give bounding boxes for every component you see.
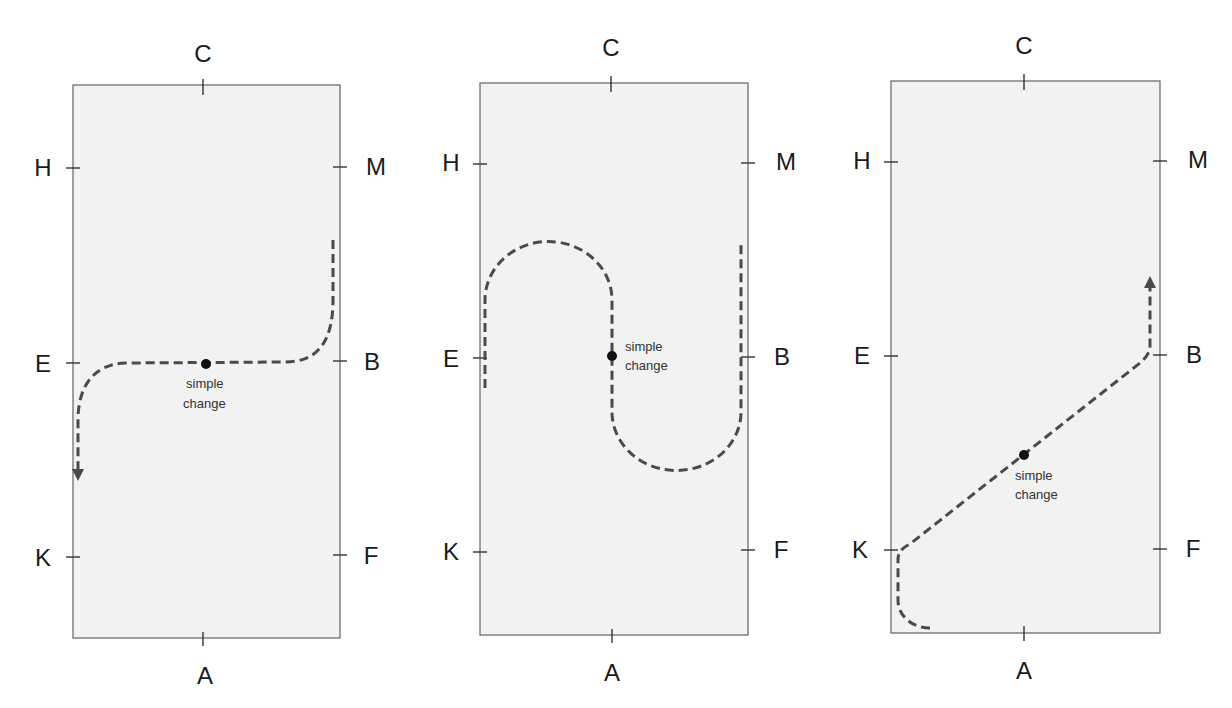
arena-2-letter-a: A — [604, 659, 620, 686]
arena-1-letter-k: K — [35, 544, 51, 571]
arena-2-letter-m: M — [776, 148, 796, 175]
arena-3-letter-k: K — [852, 536, 868, 563]
arena-1-letter-e: E — [35, 350, 51, 377]
arena-2-letter-f: F — [774, 536, 789, 563]
arena-3-letter-b: B — [1186, 341, 1202, 368]
arena-3-letter-h: H — [853, 147, 870, 174]
arena-1-change-marker-dot — [201, 359, 211, 369]
arena-3-letter-f: F — [1186, 535, 1201, 562]
arena-1: C A H E K M B F simple change — [34, 40, 386, 689]
arena-3-letter-c: C — [1015, 32, 1032, 59]
arena-2-letter-c: C — [602, 34, 619, 61]
arena-1-marker-label-line1: simple — [186, 376, 224, 391]
arena-1-letter-f: F — [364, 542, 379, 569]
arena-3-boundary — [891, 81, 1160, 633]
arena-2-letter-k: K — [443, 538, 459, 565]
arena-1-marker-label-line2: change — [183, 396, 226, 411]
arena-2-marker-label-line1: simple — [625, 339, 663, 354]
arena-1-letter-h: H — [34, 154, 51, 181]
arena-1-letter-c: C — [194, 40, 211, 67]
arena-3-letter-e: E — [854, 342, 870, 369]
arena-3-marker-label-line2: change — [1015, 487, 1058, 502]
dressage-arena-diagram: C A H E K M B F simple change C A H E K … — [0, 0, 1232, 708]
arena-1-letter-b: B — [364, 348, 380, 375]
arena-2-marker-label-line2: change — [625, 358, 668, 373]
arena-2: C A H E K M B F simple change — [442, 34, 796, 686]
arena-2-letter-h: H — [442, 149, 459, 176]
arena-3-change-marker-dot — [1019, 450, 1029, 460]
arena-3-letter-m: M — [1188, 146, 1208, 173]
arena-3-marker-label-line1: simple — [1015, 468, 1053, 483]
arena-1-letter-a: A — [197, 662, 213, 689]
arena-2-letter-b: B — [774, 343, 790, 370]
arena-3-letter-a: A — [1016, 657, 1032, 684]
arena-1-letter-m: M — [366, 153, 386, 180]
arena-2-change-marker-dot — [607, 351, 617, 361]
arena-2-letter-e: E — [443, 345, 459, 372]
arena-3: C A H E K M B F simple change — [852, 32, 1208, 684]
